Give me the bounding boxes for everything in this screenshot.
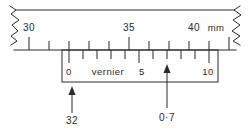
callout-vernier-reading (164, 64, 171, 108)
callout-32-label: 32 (66, 115, 78, 126)
callout-32-arrowhead (69, 86, 76, 95)
main-scale-ticks (29, 37, 229, 50)
main-scale-label-35: 35 (123, 22, 135, 33)
callout-07-arrowhead (164, 64, 171, 73)
main-scale-unit-label: mm (208, 22, 225, 33)
main-scale-break-left (10, 6, 19, 45)
main-scale-label-30: 30 (23, 22, 35, 33)
main-scale-break-right (232, 6, 241, 45)
vernier-scale-ticks (69, 50, 209, 63)
callout-07-label: 0·7 (159, 112, 175, 123)
vernier-caliper-figure: 30 35 40 mm 0 vernier 5 10 (0, 0, 251, 129)
vernier-label-10: 10 (202, 66, 214, 77)
vernier-label-0: 0 (66, 66, 72, 77)
main-scale-label-40: 40 (188, 22, 200, 33)
callout-main-reading (69, 86, 76, 113)
vernier-label-5: 5 (139, 66, 145, 77)
figure-canvas: 30 35 40 mm 0 vernier 5 10 (0, 0, 251, 129)
vernier-title: vernier (92, 66, 125, 77)
